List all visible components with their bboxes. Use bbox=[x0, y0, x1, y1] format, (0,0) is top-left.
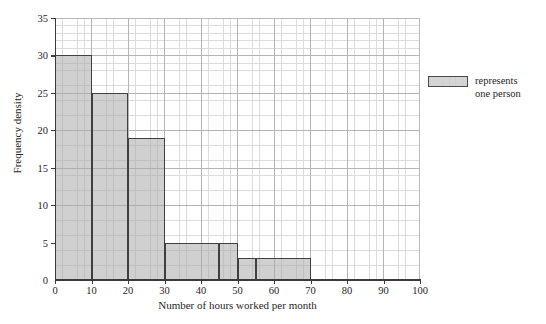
x-tick-label: 10 bbox=[86, 285, 97, 296]
y-tick-label: 30 bbox=[30, 50, 48, 61]
x-tick-label: 0 bbox=[52, 285, 57, 296]
x-tick bbox=[128, 280, 129, 284]
legend-swatch-icon bbox=[428, 76, 468, 87]
y-tick-label: 35 bbox=[30, 13, 48, 24]
histogram-bar bbox=[238, 258, 256, 280]
legend-label: represents one person bbox=[475, 74, 521, 100]
x-tick bbox=[201, 280, 202, 284]
y-axis-title: Frequency density bbox=[11, 43, 23, 223]
y-tick bbox=[51, 243, 55, 244]
x-tick-label: 80 bbox=[342, 285, 353, 296]
x-axis-title: Number of hours worked per month bbox=[55, 299, 420, 311]
histogram-bar bbox=[256, 258, 311, 280]
x-tick-label: 40 bbox=[196, 285, 207, 296]
x-tick-label: 90 bbox=[378, 285, 389, 296]
x-tick bbox=[92, 280, 93, 284]
y-tick bbox=[51, 93, 55, 94]
x-tick bbox=[238, 280, 239, 284]
x-tick bbox=[55, 280, 56, 284]
histogram-bar bbox=[55, 55, 92, 280]
bars-group bbox=[55, 18, 420, 280]
plot-area bbox=[55, 18, 420, 280]
x-tick-label: 20 bbox=[123, 285, 134, 296]
y-axis-line bbox=[55, 18, 56, 280]
x-tick bbox=[347, 280, 348, 284]
y-tick-label: 20 bbox=[30, 125, 48, 136]
histogram-bar bbox=[92, 93, 129, 280]
y-tick-label: 25 bbox=[30, 87, 48, 98]
x-tick bbox=[420, 280, 421, 284]
y-tick bbox=[51, 168, 55, 169]
x-tick-label: 50 bbox=[232, 285, 243, 296]
x-tick bbox=[384, 280, 385, 284]
y-tick-label: 0 bbox=[30, 275, 48, 286]
legend-label-line2: one person bbox=[475, 87, 521, 100]
legend-label-line1: represents bbox=[475, 74, 521, 87]
histogram-bar bbox=[219, 243, 237, 280]
x-tick-label: 70 bbox=[305, 285, 316, 296]
x-tick-label: 100 bbox=[412, 285, 428, 296]
x-tick-label: 60 bbox=[269, 285, 280, 296]
y-tick bbox=[51, 130, 55, 131]
histogram-bar bbox=[128, 138, 165, 280]
histogram-figure: 0102030405060708090100 05101520253035 Nu… bbox=[0, 0, 546, 324]
x-tick bbox=[165, 280, 166, 284]
y-tick bbox=[51, 205, 55, 206]
y-tick-label: 15 bbox=[30, 162, 48, 173]
legend: represents one person bbox=[428, 74, 521, 100]
y-tick bbox=[51, 18, 55, 19]
y-tick bbox=[51, 55, 55, 56]
x-tick bbox=[311, 280, 312, 284]
y-tick-label: 10 bbox=[30, 200, 48, 211]
x-tick bbox=[274, 280, 275, 284]
histogram-bar bbox=[165, 243, 220, 280]
y-tick-label: 5 bbox=[30, 237, 48, 248]
x-tick-label: 30 bbox=[159, 285, 170, 296]
